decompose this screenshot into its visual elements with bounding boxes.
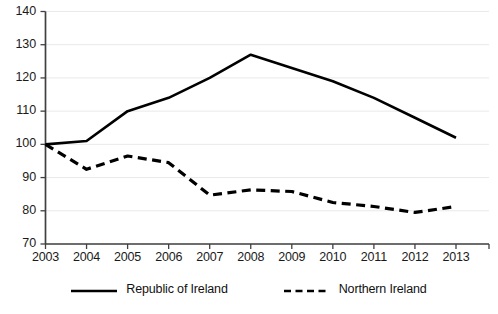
x-tick-label-2008: 2008 [229,250,273,264]
y-tick-label-90: 90 [6,170,36,184]
x-tick-label-2009: 2009 [270,250,314,264]
legend-item-republic-of-ireland[interactable]: Republic of Ireland [71,282,227,296]
series-line-republic-of-ireland [46,55,457,145]
x-tick-label-2003: 2003 [24,250,68,264]
y-tick-label-120: 120 [6,70,36,84]
chart-plot-area [0,0,498,314]
legend-label-northern-ireland: Northern Ireland [339,282,427,296]
x-tick-label-2010: 2010 [311,250,355,264]
x-tick-label-2013: 2013 [434,250,478,264]
chart-legend: Republic of Ireland Northern Ireland [0,279,498,299]
x-tick-label-2011: 2011 [352,250,396,264]
x-tick-label-2012: 2012 [393,250,437,264]
legend-item-northern-ireland[interactable]: Northern Ireland [284,282,427,296]
series-line-northern-ireland [46,144,457,212]
solid-line-swatch [71,283,117,295]
y-tick-label-140: 140 [6,4,36,18]
dashed-line-swatch [284,283,330,295]
x-tick-label-2004: 2004 [65,250,109,264]
gridlines-group [46,12,490,245]
y-tick-label-80: 80 [6,203,36,217]
axes-group [41,12,490,250]
y-tick-label-130: 130 [6,37,36,51]
x-tick-label-2006: 2006 [147,250,191,264]
chart-figure: 708090100110120130140 200320042005200620… [0,0,498,314]
x-tick-label-2005: 2005 [106,250,150,264]
y-tick-label-100: 100 [6,136,36,150]
legend-label-republic-of-ireland: Republic of Ireland [126,282,227,296]
figure-caption [0,303,498,314]
y-tick-label-110: 110 [6,103,36,117]
y-tick-label-70: 70 [6,236,36,250]
x-tick-label-2007: 2007 [188,250,232,264]
